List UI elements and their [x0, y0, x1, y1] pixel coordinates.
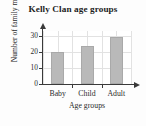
- x-tick-label-adult: Adult: [96, 89, 136, 98]
- x-axis-title: Age groups: [33, 101, 141, 111]
- x-axis-line: [42, 84, 135, 85]
- gridline-vertical: [131, 31, 132, 84]
- y-tick-mark: [39, 84, 43, 85]
- y-tick-label: 0: [20, 80, 38, 88]
- gridline-vertical: [102, 31, 103, 84]
- x-tick-mark: [72, 84, 73, 88]
- y-tick-label: 30: [20, 32, 38, 40]
- x-tick-mark: [102, 84, 103, 88]
- y-tick-mark: [39, 36, 43, 37]
- y-tick-label: 10: [20, 64, 38, 72]
- gridline-vertical: [72, 31, 73, 84]
- chart-title: Kelly Clan age groups: [0, 4, 146, 14]
- gridline-vertical: [43, 31, 44, 84]
- bar-child: [81, 46, 94, 85]
- y-axis-arrow-icon: [40, 23, 46, 29]
- bar-baby: [51, 52, 64, 84]
- plot-area: [43, 31, 131, 84]
- y-tick-mark: [39, 52, 43, 53]
- y-tick-mark: [39, 68, 43, 69]
- y-tick-label: 20: [20, 48, 38, 56]
- bar-chart-figure: Kelly Clan age groups Number of family m…: [0, 0, 146, 126]
- x-axis-arrow-icon: [134, 82, 140, 88]
- bar-adult: [110, 37, 123, 84]
